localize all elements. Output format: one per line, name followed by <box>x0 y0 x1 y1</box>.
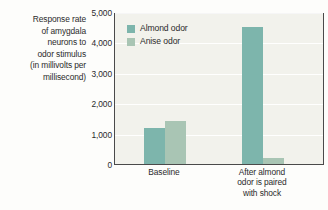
chart-legend: Almond odorAnise odor <box>127 23 188 49</box>
bar-almond-odor <box>144 128 165 164</box>
legend-label: Anise odor <box>140 37 180 46</box>
y-axis-tick-label: 3,000 <box>86 69 112 78</box>
bar-anise-odor <box>263 158 284 164</box>
bar-almond-odor <box>242 27 263 164</box>
y-axis-title-line: (in millivolts per <box>2 60 86 72</box>
x-axis-category-label-line: odor is paired <box>202 177 322 187</box>
y-axis-tick-labels: 01,0002,0003,0004,0005,000 <box>86 0 112 210</box>
plot-area: Almond odorAnise odor <box>114 13 324 165</box>
x-axis-category-label-line: After almond <box>202 167 322 177</box>
y-axis-title-line: Response rate <box>2 14 86 26</box>
y-axis-tick-label: 4,000 <box>86 39 112 48</box>
y-axis-tick-label: 1,000 <box>86 130 112 139</box>
y-axis-title-line: odor stimulus <box>2 49 86 61</box>
y-axis-tick-label: 5,000 <box>86 9 112 18</box>
legend-item: Anise odor <box>127 36 188 47</box>
x-axis-category-labels: BaselineAfter almondodor is pairedwith s… <box>114 167 324 209</box>
bar-anise-odor <box>165 121 186 164</box>
bar-chart-figure: Response rateof amygdalaneurons toodor s… <box>0 0 328 210</box>
y-axis-title-line: millisecond) <box>2 72 86 84</box>
y-axis-tick-label: 2,000 <box>86 100 112 109</box>
y-axis-title: Response rateof amygdalaneurons toodor s… <box>2 14 86 84</box>
legend-swatch-icon <box>127 25 135 33</box>
x-axis-category-label: After almondodor is pairedwith shock <box>202 167 322 198</box>
bar-group <box>242 14 284 164</box>
x-axis-category-label-line: with shock <box>202 188 322 198</box>
y-axis-title-line: neurons to <box>2 37 86 49</box>
legend-swatch-icon <box>127 38 135 46</box>
y-axis-title-line: of amygdala <box>2 26 86 38</box>
legend-label: Almond odor <box>140 24 188 33</box>
legend-item: Almond odor <box>127 23 188 34</box>
